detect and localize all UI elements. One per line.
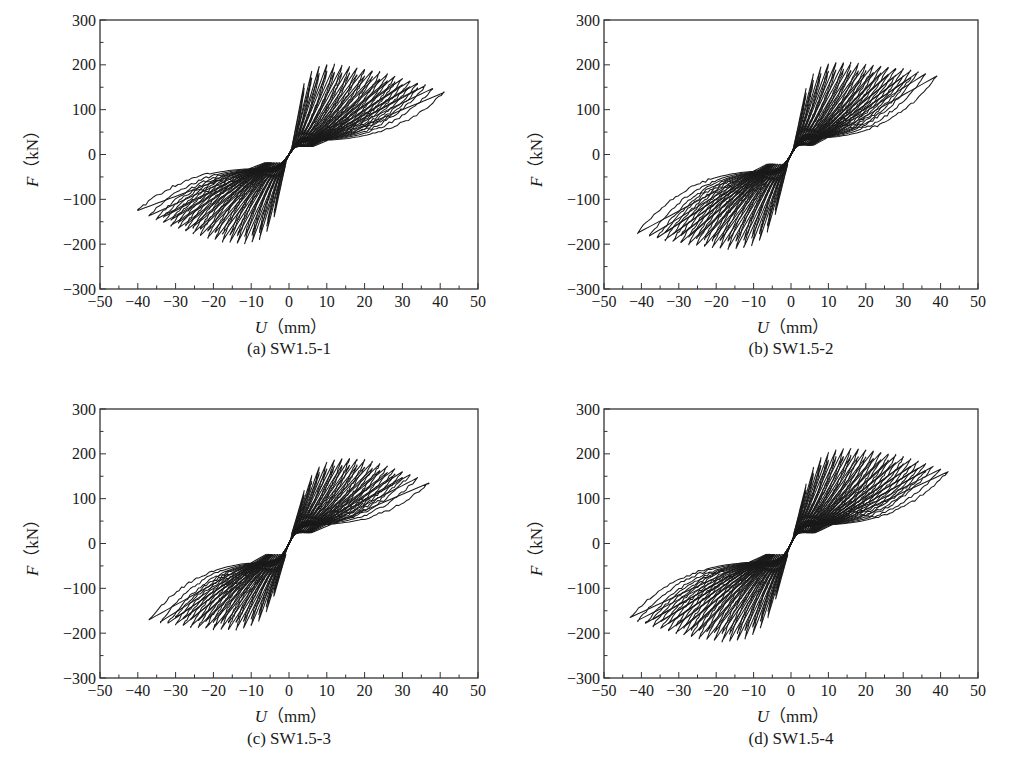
- y-tick-label: 200: [576, 445, 600, 462]
- x-tick-label: −30: [666, 682, 691, 699]
- x-tick-label: −10: [741, 682, 766, 699]
- x-tick-label: 30: [895, 682, 911, 699]
- x-tick-label: 20: [858, 682, 874, 699]
- x-tick-label: 50: [970, 682, 986, 699]
- chart-panel-d: −50−40−30−20−10010203040503002001000−100…: [0, 0, 500, 389]
- hysteresis-loop: [776, 484, 806, 599]
- x-tick-label: 0: [787, 682, 795, 699]
- x-tick-label: −20: [704, 682, 729, 699]
- hysteresis-loop: [669, 459, 911, 631]
- x-axis-title: U（mm）: [757, 707, 830, 726]
- hysteresis-curves: [630, 449, 948, 642]
- y-tick-label: 0: [592, 535, 600, 552]
- y-tick-label: −200: [567, 625, 600, 642]
- y-tick-label: 100: [576, 490, 600, 507]
- y-axis-title: F（kN）: [527, 511, 546, 577]
- x-tick-label: −40: [629, 682, 654, 699]
- hysteresis-plot-d: −50−40−30−20−10010203040503002001000−100…: [0, 0, 1009, 778]
- y-tick-label: −100: [567, 580, 600, 597]
- y-tick-label: 300: [576, 401, 600, 418]
- hysteresis-loop: [630, 472, 948, 618]
- y-tick-label: −300: [567, 670, 600, 687]
- x-tick-label: 40: [933, 682, 949, 699]
- x-tick-label: 10: [820, 682, 836, 699]
- panel-caption-d: (d) SW1.5-4: [749, 729, 834, 749]
